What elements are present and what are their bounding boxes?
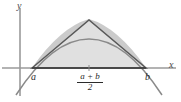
x-axis-label: x <box>169 60 173 70</box>
right-endpoint-label-b: b <box>145 72 150 82</box>
y-axis-label: y <box>17 1 21 11</box>
midpoint-denominator: 2 <box>72 83 108 92</box>
midpoint-label: a + b 2 <box>72 72 108 93</box>
midpoint-numerator: a + b <box>72 72 108 81</box>
left-endpoint-label-a: a <box>31 72 36 82</box>
parabola-figure: y x a b a + b 2 <box>0 0 181 102</box>
inscribed-triangle-fill <box>32 20 146 68</box>
